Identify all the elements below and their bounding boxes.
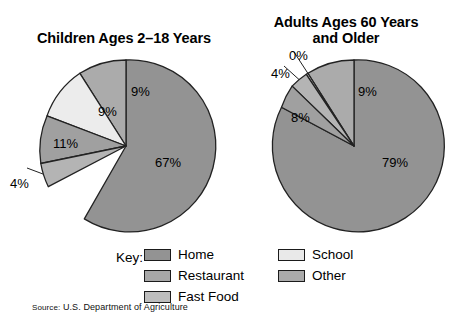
legend-item-home[interactable]: Home — [144, 246, 244, 264]
legend-label-school: School — [312, 248, 353, 262]
legend-swatch-restaurant — [144, 270, 171, 282]
source-prefix: Source: — [32, 303, 60, 312]
leader-line-fastfood — [27, 168, 43, 174]
pie-chart-adults — [268, 60, 440, 232]
slice-label-restaurant-children: 11% — [53, 136, 78, 151]
slice-label-home-adults: 79% — [382, 155, 408, 170]
legend-swatch-home — [144, 249, 171, 261]
legend-swatch-other — [278, 270, 305, 282]
slice-label-home-children: 67% — [155, 155, 181, 170]
figure-canvas: Children Ages 2–18 Years 67% 9% 9% 11% 4… — [0, 0, 460, 323]
slice-label-other-adults: 9% — [358, 84, 377, 99]
slice-label-fastfood-adults: 4% — [271, 66, 290, 81]
legend-title: Key: — [116, 250, 143, 265]
legend: Key: Home Restaurant Fast Food School — [116, 246, 446, 302]
chart-title-adults-line2: and Older — [238, 30, 454, 46]
legend-column-right: School Other — [278, 246, 353, 288]
legend-item-school[interactable]: School — [278, 246, 353, 264]
source-note: Source: U.S. Department of Agriculture — [32, 302, 188, 312]
legend-label-other: Other — [312, 269, 346, 283]
legend-column-left: Home Restaurant Fast Food — [144, 246, 244, 309]
legend-item-restaurant[interactable]: Restaurant — [144, 267, 244, 285]
source-text: U.S. Department of Agriculture — [63, 302, 188, 312]
legend-label-home: Home — [178, 248, 214, 262]
chart-title-adults: Adults Ages 60 Years and Older — [238, 14, 454, 46]
legend-label-restaurant: Restaurant — [178, 269, 244, 283]
legend-swatch-school — [278, 249, 305, 261]
slice-label-fastfood-children: 4% — [10, 176, 29, 191]
legend-item-other[interactable]: Other — [278, 267, 353, 285]
slice-label-school-adults: 0% — [289, 48, 308, 63]
slice-label-other-children: 9% — [131, 84, 150, 99]
slice-label-restaurant-adults: 8% — [291, 110, 310, 125]
chart-title-adults-line1: Adults Ages 60 Years — [238, 14, 454, 30]
chart-title-children: Children Ages 2–18 Years — [6, 30, 242, 46]
slice-label-school-children: 9% — [98, 104, 117, 119]
